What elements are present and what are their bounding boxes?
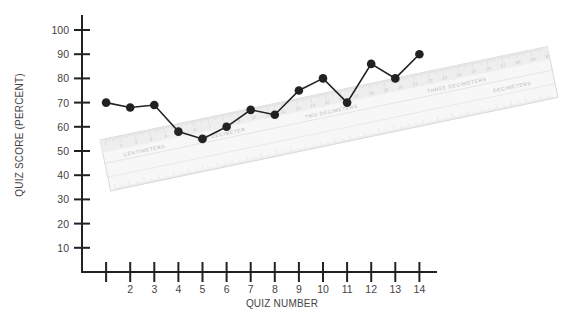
data-point [222,123,231,132]
data-point [102,98,111,107]
x-tick-label: 5 [200,283,206,295]
x-tick-label: 12 [365,283,377,295]
x-tick-label: 2 [127,283,133,295]
data-point [343,98,352,107]
y-tick-label: 60 [57,121,69,133]
x-axis-title: QUIZ NUMBER [246,298,318,309]
y-tick-label: 50 [57,145,69,157]
data-point [295,86,304,95]
y-axis-ticks: 102030405060708090100 [51,24,90,254]
x-tick-label: 4 [175,283,181,295]
data-point [319,74,328,83]
y-tick-label: 30 [57,193,69,205]
x-tick-label: 11 [342,283,353,295]
x-tick-label: 3 [151,283,157,295]
data-point [367,60,376,69]
y-tick-label: 70 [57,97,69,109]
y-tick-label: 10 [57,242,69,254]
x-tick-label: 10 [317,283,329,295]
data-point [415,50,424,59]
y-tick-label: 90 [57,48,69,60]
data-point [174,127,183,136]
data-point [150,101,159,110]
y-tick-label: 80 [57,72,69,84]
data-point [126,103,135,112]
y-tick-label: 20 [57,218,69,230]
y-tick-label: 100 [51,24,69,36]
quiz-score-chart: 1234567891011121314151617181920212223242… [0,0,578,323]
ruler-overlay: 1234567891011121314151617181920212223242… [100,46,559,191]
x-tick-label: 14 [414,283,426,295]
x-tick-label: 6 [224,283,230,295]
y-axis-title: QUIZ SCORE (PERCENT) [14,73,25,196]
x-tick-label: 13 [389,283,401,295]
data-point [198,135,207,144]
data-point [391,74,400,83]
y-tick-label: 40 [57,169,69,181]
x-tick-label: 9 [296,283,302,295]
x-axis-ticks: 234567891011121314 [106,262,425,295]
data-point [246,106,255,115]
x-tick-label: 8 [272,283,278,295]
x-tick-label: 7 [248,283,254,295]
data-point [271,110,280,119]
